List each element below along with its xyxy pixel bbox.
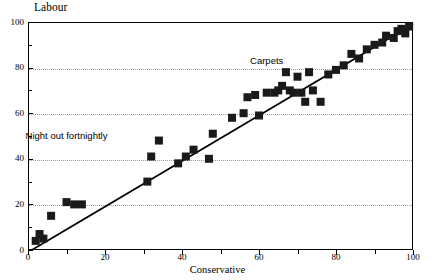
x-tick-label: 20 xyxy=(92,253,118,262)
x-minor-tick xyxy=(298,250,299,254)
x-axis-label: Conservative xyxy=(0,264,435,275)
data-point xyxy=(371,41,379,49)
data-point xyxy=(405,23,413,31)
data-point xyxy=(317,98,325,106)
data-point xyxy=(209,130,217,138)
data-point xyxy=(240,109,248,117)
data-point xyxy=(301,98,309,106)
plot-annotation: Night out fortnightly xyxy=(26,130,108,141)
data-point xyxy=(340,61,348,69)
x-tick-label: 40 xyxy=(169,253,195,262)
data-point xyxy=(182,153,190,161)
x-minor-tick xyxy=(375,250,376,254)
data-point xyxy=(263,89,271,97)
data-point xyxy=(228,114,236,122)
x-tick-label: 100 xyxy=(400,253,426,262)
data-point xyxy=(143,178,151,186)
data-point xyxy=(309,86,317,94)
data-point xyxy=(32,237,40,245)
data-point xyxy=(251,91,259,99)
y-tick-label: 60 xyxy=(0,109,24,118)
y-axis-label: Labour xyxy=(34,1,67,14)
data-point xyxy=(39,235,47,243)
data-point xyxy=(282,68,290,76)
y-tick-label: 20 xyxy=(0,200,24,209)
x-minor-tick xyxy=(67,250,68,254)
data-point xyxy=(390,34,398,42)
data-point xyxy=(363,45,371,53)
data-point xyxy=(324,70,332,78)
x-tick-label: 60 xyxy=(246,253,272,262)
y-tick-label: 40 xyxy=(0,154,24,163)
data-point xyxy=(332,66,340,74)
data-point xyxy=(174,159,182,167)
x-tick-label: 0 xyxy=(15,253,41,262)
data-point xyxy=(63,198,71,206)
data-point xyxy=(147,153,155,161)
data-point xyxy=(205,155,213,163)
data-point xyxy=(355,54,363,62)
x-tick-label: 80 xyxy=(323,253,349,262)
data-point xyxy=(401,29,409,37)
data-point xyxy=(378,39,386,47)
data-point xyxy=(47,212,55,220)
y-tick-label: 80 xyxy=(0,63,24,72)
x-minor-tick xyxy=(144,250,145,254)
data-point xyxy=(78,200,86,208)
data-point xyxy=(305,68,313,76)
data-point xyxy=(347,50,355,58)
data-point xyxy=(190,146,198,154)
plot-annotation: Carpets xyxy=(250,55,283,66)
data-point xyxy=(290,89,298,97)
data-point xyxy=(70,200,78,208)
data-point xyxy=(243,93,251,101)
data-point xyxy=(255,111,263,119)
y-tick-label: 100 xyxy=(0,18,24,27)
data-point xyxy=(278,82,286,90)
data-point xyxy=(382,32,390,40)
data-point xyxy=(297,89,305,97)
data-point xyxy=(294,73,302,81)
scatter-chart: Labour 020406080100 020406080100 Carpets… xyxy=(0,0,435,280)
x-minor-tick xyxy=(221,250,222,254)
data-point xyxy=(155,137,163,145)
